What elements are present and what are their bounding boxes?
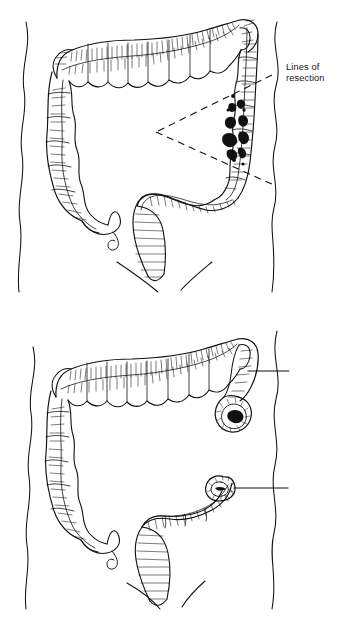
torso-outline-right xyxy=(272,22,278,292)
rectum-right-border xyxy=(137,206,165,274)
cecum-lower-edge xyxy=(82,221,99,233)
rectum-left-border xyxy=(133,202,148,276)
transverse-colon-upper xyxy=(57,20,240,78)
ascending-colon-outer xyxy=(46,391,81,540)
colostomy-stoma-lumen xyxy=(227,410,243,423)
torso-outline-left xyxy=(18,22,27,292)
appendix xyxy=(108,232,118,250)
label-lines-of-resection: Lines of resection xyxy=(286,62,325,85)
torso-outline-right xyxy=(272,331,278,609)
figure-panel-preoperative: Lines of resection xyxy=(0,0,361,313)
label-line-2: resection xyxy=(286,73,325,84)
appendix xyxy=(107,551,117,569)
resection-line-lower xyxy=(156,132,276,186)
ascending-colon-inner xyxy=(68,400,107,544)
rectum-tip xyxy=(148,274,164,281)
taenia-coli-descending xyxy=(226,28,247,200)
rectal-stump-right xyxy=(142,527,170,599)
label-line-1: Lines of xyxy=(286,62,325,73)
torso-outline-left xyxy=(25,347,34,609)
mucus-fistula-lumen xyxy=(215,487,226,491)
ascending-colon-inner xyxy=(69,81,108,225)
groin-crease-right xyxy=(181,262,212,290)
transverse-colon-lower xyxy=(69,50,241,88)
splenic-flexure-limb-outer xyxy=(238,339,258,401)
groin-crease-right xyxy=(182,581,205,607)
splenic-flexure-inner xyxy=(240,28,250,50)
cecum-lower-edge xyxy=(81,540,98,552)
figure-panel-postoperative: Splenic flexure Cutaneous mucus fistula … xyxy=(0,313,361,626)
transverse-colon-lower xyxy=(68,369,240,407)
rectal-stump-tip xyxy=(150,599,167,605)
splenic-flexure-limb-inner xyxy=(239,344,250,369)
taenia-coli-transverse xyxy=(62,25,239,70)
ascending-colon-outer xyxy=(47,72,82,221)
lines-of-resection-marks xyxy=(156,75,276,186)
distal-limb-lower xyxy=(142,491,222,527)
colon-haustral-hatching xyxy=(46,20,257,277)
